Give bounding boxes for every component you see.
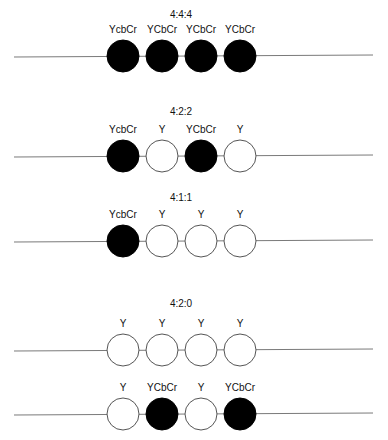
pattern-row-r411: 4:1:1YcbCrYYY	[14, 192, 373, 257]
luma-sample-circle	[185, 398, 217, 430]
sample-label: Y	[159, 209, 166, 220]
luma-sample-circle	[224, 334, 256, 366]
sample-label: Y	[237, 124, 244, 135]
sample-label: YCbCr	[147, 382, 178, 393]
sample-label: Y	[198, 209, 205, 220]
pattern-title: 4:1:1	[170, 192, 193, 203]
chroma-subsampling-diagram: 4:4:4YcbCrYCbCrYCbCrYCbCr4:2:2YcbCrYYCbC…	[0, 0, 388, 440]
sample-label: Y	[237, 209, 244, 220]
luma-sample-circle	[185, 225, 217, 257]
sample-label: YCbCr	[186, 124, 217, 135]
chroma-sample-circle	[146, 40, 178, 72]
luma-sample-circle	[224, 140, 256, 172]
luma-sample-circle	[224, 225, 256, 257]
chroma-sample-circle	[224, 40, 256, 72]
luma-sample-circle	[185, 334, 217, 366]
chroma-sample-circle	[107, 140, 139, 172]
luma-sample-circle	[107, 334, 139, 366]
sample-label: Y	[120, 318, 127, 329]
pattern-title: 4:4:4	[170, 9, 193, 20]
pattern-row-r420a: 4:2:0YYYY	[14, 298, 373, 366]
sample-label: YcbCr	[109, 209, 137, 220]
sample-label: Y	[159, 124, 166, 135]
sample-label: Y	[120, 382, 127, 393]
sample-label: Y	[159, 318, 166, 329]
chroma-sample-circle	[107, 225, 139, 257]
chroma-sample-circle	[185, 40, 217, 72]
sample-label: YCbCr	[186, 24, 217, 35]
pattern-row-r420b: YYCbCrYYCbCr	[14, 382, 373, 430]
luma-sample-circle	[146, 225, 178, 257]
chroma-sample-circle	[146, 398, 178, 430]
luma-sample-circle	[146, 334, 178, 366]
luma-sample-circle	[107, 398, 139, 430]
pattern-title: 4:2:0	[170, 298, 193, 309]
luma-sample-circle	[146, 140, 178, 172]
sample-label: YCbCr	[225, 24, 256, 35]
pattern-row-r444: 4:4:4YcbCrYCbCrYCbCrYCbCr	[14, 9, 373, 72]
sample-label: Y	[198, 382, 205, 393]
chroma-sample-circle	[224, 398, 256, 430]
sample-label: Y	[237, 318, 244, 329]
chroma-sample-circle	[107, 40, 139, 72]
sample-label: YcbCr	[109, 24, 137, 35]
sample-label: Y	[198, 318, 205, 329]
sample-label: YCbCr	[147, 24, 178, 35]
pattern-row-r422: 4:2:2YcbCrYYCbCrY	[14, 106, 373, 172]
sample-label: YcbCr	[109, 124, 137, 135]
chroma-sample-circle	[185, 140, 217, 172]
pattern-title: 4:2:2	[170, 106, 193, 117]
sample-label: YCbCr	[225, 382, 256, 393]
